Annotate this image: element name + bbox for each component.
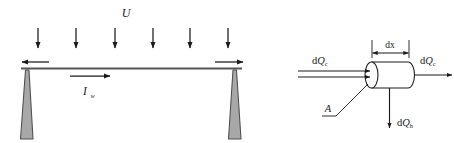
load-label-U: U	[122, 6, 132, 20]
loss-label-subscript: h	[410, 122, 414, 129]
right-support-pylon	[229, 70, 242, 139]
right-control-volume-group: dx A dQc dQc	[298, 40, 452, 129]
inflow-label-subscript: c	[325, 60, 328, 67]
area-label-A: A	[324, 103, 332, 114]
loss-label: dQh	[397, 117, 414, 129]
left-support-pylon	[21, 70, 34, 139]
area-leader-line	[336, 84, 368, 116]
left-beam-group: U I w	[21, 6, 244, 139]
outflow-label: dQc	[420, 55, 436, 67]
outflow-label-subscript: c	[433, 60, 436, 67]
technical-diagram: U I w dx	[0, 0, 454, 143]
distributed-load-arrows	[38, 28, 228, 48]
dx-dimension-label: dx	[385, 40, 395, 50]
inflow-label: dQc	[312, 55, 328, 67]
current-label-I: I	[82, 85, 88, 97]
current-label-subscript: w	[91, 92, 96, 99]
cylinder-left-face-ellipse	[365, 62, 378, 88]
dx-dimension-label-text: dx	[385, 40, 395, 50]
figure-container: U I w dx	[0, 0, 454, 143]
